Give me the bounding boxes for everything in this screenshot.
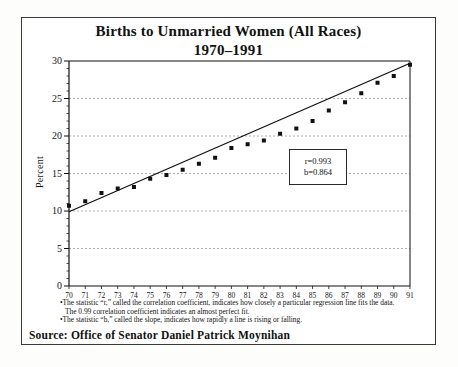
chart-title-line2: 1970–1991	[22, 41, 435, 60]
svg-text:10: 10	[52, 205, 62, 216]
stats-annotation-box: r=0.993 b=0.864	[289, 149, 347, 185]
data-point	[343, 100, 347, 104]
chart-frame: 0510152025307071727374757677787980818283…	[21, 17, 436, 345]
data-point	[67, 204, 71, 208]
data-point	[213, 156, 217, 160]
svg-text:25: 25	[52, 93, 62, 104]
data-point	[359, 91, 363, 95]
y-axis-ticks	[64, 61, 69, 286]
y-axis-label: Percent	[34, 156, 45, 188]
data-point	[197, 162, 201, 166]
y-axis-tick-labels: 051015202530	[52, 55, 62, 291]
svg-text:0: 0	[57, 280, 62, 291]
data-point	[327, 109, 331, 113]
scanned-chart-page: { "title": { "line1": "Births to Unmarri…	[0, 0, 458, 367]
chart-title: Births to Unmarried Women (All Races) 19…	[22, 22, 435, 60]
footnote-b: •The statistic “b,” called the slope, in…	[60, 316, 425, 325]
chart-title-line1: Births to Unmarried Women (All Races)	[22, 22, 435, 41]
data-point	[408, 63, 412, 67]
data-point	[181, 168, 185, 172]
svg-text:15: 15	[52, 168, 62, 179]
data-point	[229, 146, 233, 150]
scatter-plot: 0510152025307071727374757677787980818283…	[22, 18, 435, 344]
data-point	[83, 199, 87, 203]
footnotes: •The statistic “r,” called the correlati…	[60, 299, 425, 325]
source-line: Source: Office of Senator Daniel Patrick…	[29, 329, 290, 341]
data-point	[148, 177, 152, 181]
data-point	[164, 173, 168, 177]
data-point	[246, 142, 250, 146]
data-point	[278, 132, 282, 136]
data-point	[99, 191, 103, 195]
data-point	[294, 127, 298, 131]
slope-value: b=0.864	[290, 167, 346, 178]
svg-text:5: 5	[57, 243, 62, 254]
correlation-coefficient-value: r=0.993	[290, 156, 346, 167]
regression-line	[69, 63, 410, 212]
data-point	[132, 185, 136, 189]
data-point	[376, 81, 380, 85]
data-point	[262, 139, 266, 143]
data-point	[116, 187, 120, 191]
gridlines	[69, 99, 410, 249]
data-point	[311, 119, 315, 123]
data-point	[392, 74, 396, 78]
svg-text:20: 20	[52, 130, 62, 141]
